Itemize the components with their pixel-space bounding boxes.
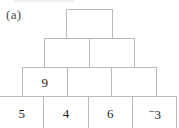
raised-minus-sign: − bbox=[148, 106, 154, 117]
pyramid-cell-r1c1[interactable] bbox=[66, 9, 113, 39]
pyramid-row-third: 9 bbox=[22, 67, 157, 97]
pyramid-cell-r3c1[interactable]: 9 bbox=[22, 67, 68, 97]
pyramid-cell-value-negative: −3 bbox=[148, 105, 161, 121]
pyramid-cell-magnitude: 3 bbox=[154, 107, 161, 122]
pyramid-cell-value: 9 bbox=[42, 76, 49, 89]
pyramid-cell-r4c2[interactable]: 4 bbox=[43, 96, 88, 128]
pyramid-cell-r2c1[interactable] bbox=[44, 38, 90, 68]
part-label: (a) bbox=[6, 7, 21, 22]
pyramid-cell-r3c2[interactable] bbox=[67, 67, 113, 97]
pyramid-cell-r2c2[interactable] bbox=[89, 38, 135, 68]
pyramid-cell-value: 6 bbox=[107, 107, 114, 120]
pyramid-cell-value: 5 bbox=[18, 107, 25, 120]
pyramid-cell-value: 4 bbox=[63, 107, 70, 120]
pyramid-row-bottom: 5 4 6 −3 bbox=[0, 96, 179, 128]
top-edge-clip-artifact bbox=[14, 0, 74, 2]
pyramid-row-second bbox=[44, 38, 135, 68]
pyramid-row-top bbox=[66, 9, 113, 39]
pyramid-cell-r4c1[interactable]: 5 bbox=[0, 96, 44, 128]
number-pyramid-figure: (a) 9 5 4 6 bbox=[0, 0, 179, 128]
pyramid-cell-r4c4[interactable]: −3 bbox=[132, 96, 177, 128]
pyramid-cell-r4c3[interactable]: 6 bbox=[88, 96, 133, 128]
pyramid-cell-r3c3[interactable] bbox=[111, 67, 157, 97]
